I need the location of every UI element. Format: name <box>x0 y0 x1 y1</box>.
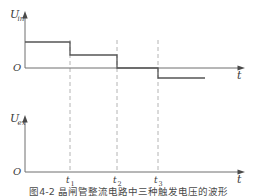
input-panel-x-axis-label: t <box>237 69 242 82</box>
figure-container: U in O t U ex O t t 1 <box>0 0 257 196</box>
x-tick-label-t3: t <box>154 175 158 185</box>
waveform-diagram: U in O t U ex O t t 1 <box>0 0 257 196</box>
figure-caption: 图4-2 晶闸管整流电路中三种触发电压的波形 <box>0 186 257 196</box>
input-voltage-panel: U in O t <box>10 8 245 82</box>
input-panel-origin-label: O <box>13 62 21 73</box>
excitation-panel-y-axis-label-subscript: ex <box>18 119 26 127</box>
x-tick-label-t2: t <box>113 175 117 185</box>
dashed-guide-lines <box>70 40 158 172</box>
excitation-voltage-panel: U ex O t t 1 t 2 t 3 <box>10 112 245 188</box>
input-panel-y-axis-label-subscript: in <box>18 15 25 23</box>
excitation-panel-origin-label: O <box>13 166 21 177</box>
input-staircase-waveform <box>25 42 205 78</box>
excitation-panel-x-axis-label: t <box>237 173 242 186</box>
x-tick-label-t1: t <box>66 175 70 185</box>
figure-caption-clip: 图4-2 晶闸管整流电路中三种触发电压的波形 <box>0 186 257 196</box>
